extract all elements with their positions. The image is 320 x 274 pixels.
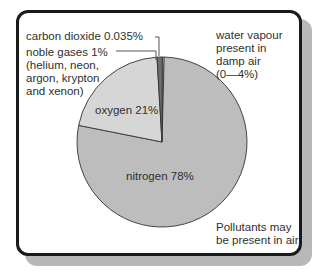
- pollutants-note: Pollutants may be present in air.: [216, 221, 301, 247]
- noble-gases-label: noble gases 1% (helium, neon, argon, kry…: [26, 46, 108, 98]
- oxygen-label: oxygen 21%: [95, 104, 158, 117]
- water-vapour-note: water vapour present in damp air (0—4%): [216, 29, 282, 81]
- co2-label: carbon dioxide 0.035%: [26, 30, 143, 43]
- nitrogen-label: nitrogen 78%: [126, 170, 194, 183]
